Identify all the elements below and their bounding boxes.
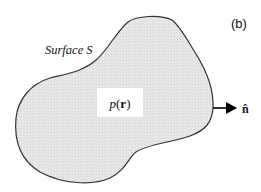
surface-label: Surface S	[45, 43, 93, 57]
density-label: p(r)	[109, 96, 131, 111]
diagram-canvas: p(r) Surface S (b) n̂	[0, 0, 261, 192]
panel-label: (b)	[231, 16, 247, 31]
normal-arrow-head	[226, 102, 237, 114]
normal-vector-label: n̂	[242, 102, 249, 116]
